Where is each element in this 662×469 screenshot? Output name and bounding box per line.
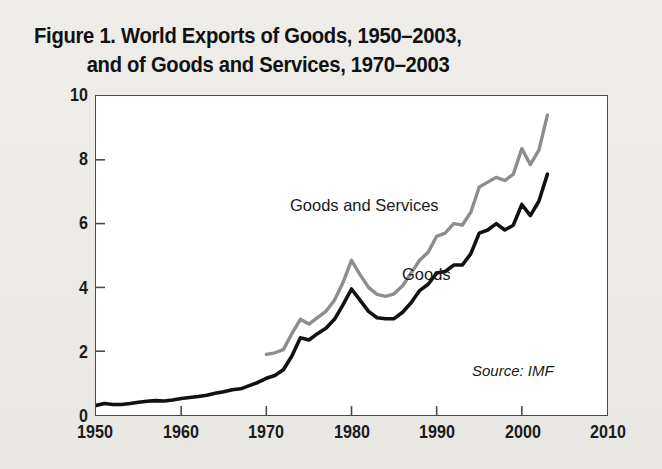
x-tick-1990: 1990 bbox=[400, 422, 474, 443]
x-tick-1950: 1950 bbox=[58, 422, 132, 443]
y-tick-8: 8 bbox=[57, 149, 88, 170]
x-tick-1980: 1980 bbox=[315, 422, 389, 443]
y-axis-tick-labels: 0246810 bbox=[46, 0, 88, 469]
y-tick-10: 10 bbox=[57, 85, 88, 106]
source-note: Source: IMF bbox=[472, 362, 554, 379]
y-tick-4: 4 bbox=[57, 277, 88, 298]
series-label-goods-and-services: Goods and Services bbox=[290, 196, 439, 215]
page-title: Figure 1. World Exports of Goods, 1950–2… bbox=[34, 22, 598, 79]
series-label-goods: Goods bbox=[402, 265, 451, 284]
x-tick-2010: 2010 bbox=[571, 422, 645, 443]
x-tick-1970: 1970 bbox=[229, 422, 303, 443]
title-line-2: and of Goods and Services, 1970–2003 bbox=[34, 51, 598, 80]
title-line-1: Figure 1. World Exports of Goods, 1950–2… bbox=[34, 24, 461, 48]
y-tick-6: 6 bbox=[57, 213, 88, 234]
y-tick-2: 2 bbox=[57, 341, 88, 362]
line-goods-and-services bbox=[266, 115, 547, 354]
figure-container: Figure 1. World Exports of Goods, 1950–2… bbox=[0, 0, 662, 469]
x-tick-1960: 1960 bbox=[144, 422, 218, 443]
x-tick-2000: 2000 bbox=[486, 422, 560, 443]
